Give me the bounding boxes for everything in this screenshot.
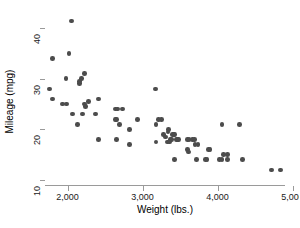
data-point (192, 137, 197, 142)
data-point (278, 168, 283, 173)
data-point (64, 76, 69, 81)
x-axis-tick-label: 2,000 (48, 192, 88, 202)
data-point (69, 19, 74, 24)
data-point (80, 112, 85, 117)
data-point (64, 102, 69, 107)
data-point (82, 71, 87, 76)
plot-area (45, 18, 285, 185)
data-point (196, 142, 201, 147)
data-point (70, 112, 75, 117)
data-point (127, 142, 132, 147)
data-point (154, 122, 159, 127)
x-axis-tick (218, 186, 219, 191)
y-axis-tick-label: 20 (32, 128, 42, 152)
y-axis-tick-label: 10 (32, 179, 42, 203)
data-point (93, 112, 98, 117)
data-point (127, 127, 132, 132)
x-axis-title: Weight (lbs.) (45, 204, 285, 215)
data-point (96, 97, 101, 102)
data-point (135, 117, 140, 122)
data-point (172, 157, 177, 162)
data-point (176, 137, 181, 142)
data-point (167, 140, 172, 145)
data-point (79, 76, 84, 81)
data-point (159, 117, 164, 122)
data-point (154, 140, 159, 145)
scatter-plot-figure: 2,0003,0004,0005,00010203040 Mileage (mp… (0, 0, 299, 228)
x-axis-tick (68, 186, 69, 191)
data-point (220, 122, 225, 127)
data-point (75, 122, 80, 127)
y-axis-title: Mileage (mpg) (4, 18, 16, 185)
x-axis-tick (143, 186, 144, 191)
data-point (114, 137, 119, 142)
data-point (50, 97, 55, 102)
data-point (67, 51, 72, 56)
y-axis-tick-label: 30 (32, 78, 42, 102)
data-point (240, 157, 245, 162)
clipped-header-text (0, 0, 299, 4)
data-point (269, 168, 274, 173)
data-point (225, 152, 230, 157)
data-point (172, 132, 177, 137)
x-axis-tick-label: 3,000 (123, 192, 163, 202)
data-point (114, 117, 119, 122)
data-point (225, 157, 230, 162)
x-axis-tick-label: 5,000 (273, 192, 300, 202)
data-point (194, 157, 199, 162)
data-point (83, 104, 88, 109)
x-axis-tick-label: 4,000 (198, 192, 238, 202)
x-axis-line (45, 185, 285, 186)
data-point (50, 56, 55, 61)
data-point (220, 157, 225, 162)
data-point (153, 87, 158, 92)
data-point (96, 137, 101, 142)
data-point (237, 122, 242, 127)
y-axis-tick-label: 40 (32, 27, 42, 51)
y-axis-title-label: Mileage (mpg) (5, 70, 16, 134)
data-point (208, 147, 213, 152)
data-point (205, 157, 210, 162)
data-point (47, 87, 52, 92)
x-axis-tick (293, 186, 294, 191)
data-point (117, 122, 122, 127)
data-point (186, 150, 191, 155)
data-point (120, 107, 125, 112)
